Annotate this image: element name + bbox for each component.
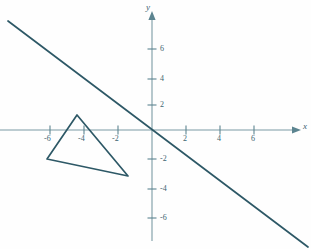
x-tick-label-6: 6 xyxy=(251,135,255,143)
plotted-line xyxy=(8,21,308,247)
x-tick-label--2: -2 xyxy=(112,135,119,143)
x-axis-label: x xyxy=(303,122,307,131)
x-axis-arrowhead xyxy=(292,126,301,133)
x-tick-label--4: -4 xyxy=(78,135,85,143)
y-tick-label--4: -4 xyxy=(160,185,167,193)
y-axis-group xyxy=(148,11,155,241)
x-tick-label-2: 2 xyxy=(183,135,187,143)
plotted-triangle xyxy=(47,115,128,176)
figure-canvas: x y -6 -4 -2 2 4 6 6 4 2 -2 -4 -6 xyxy=(0,0,311,249)
y-tick-label--2: -2 xyxy=(160,155,167,163)
y-tick-label--6: -6 xyxy=(160,214,167,222)
y-tick-label-2: 2 xyxy=(160,101,164,109)
x-tick-label--6: -6 xyxy=(44,135,51,143)
coordinate-plane-svg xyxy=(0,0,311,249)
y-tick-label-6: 6 xyxy=(160,45,164,53)
y-axis-label: y xyxy=(146,3,150,12)
y-axis-arrowhead xyxy=(148,11,155,20)
x-tick-label-4: 4 xyxy=(217,135,221,143)
y-tick-label-4: 4 xyxy=(160,75,164,83)
